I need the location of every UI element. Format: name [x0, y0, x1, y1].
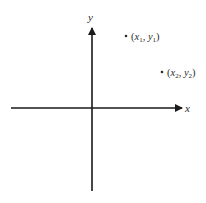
y-axis-label: y: [87, 11, 93, 23]
coordinate-plane: x y (x1, y1) (x2, y2): [0, 0, 206, 203]
point-dot: [161, 71, 164, 74]
point-label: (x2, y2): [167, 67, 196, 80]
point-x2-y2: (x2, y2): [161, 67, 196, 80]
x-axis-label: x: [184, 102, 190, 114]
point-x1-y1: (x1, y1): [125, 31, 160, 44]
point-dot: [125, 35, 128, 38]
point-label: (x1, y1): [131, 31, 160, 44]
